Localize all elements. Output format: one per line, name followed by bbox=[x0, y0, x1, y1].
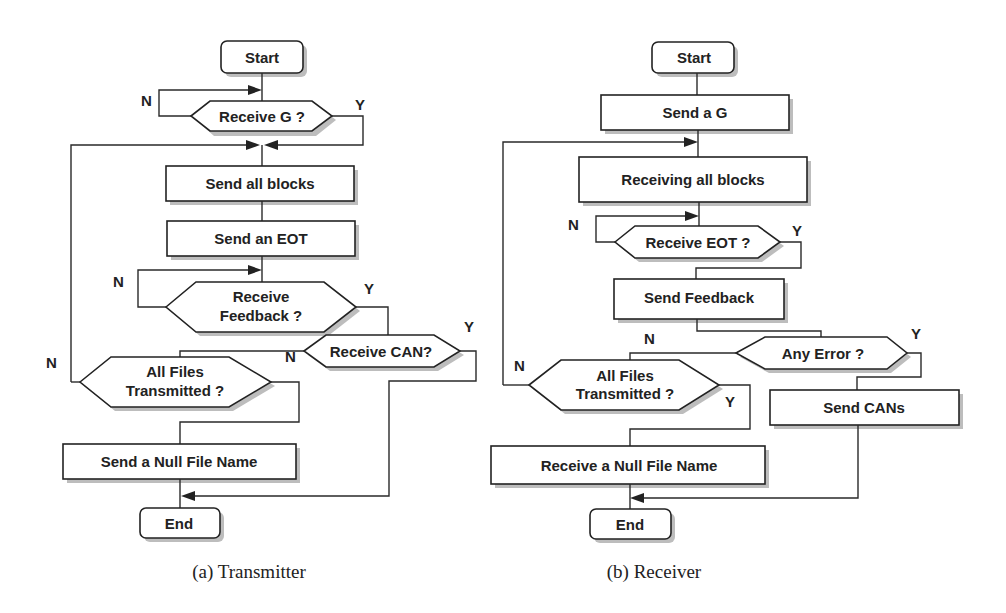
tx-end-terminal: End bbox=[140, 508, 224, 542]
tx-send-null-file-name: Send a Null File Name bbox=[63, 444, 300, 483]
tx-receive-feedback-yes: Y bbox=[364, 280, 374, 297]
rx-start-label: Start bbox=[677, 49, 711, 66]
tx-send-eot: Send an EOT bbox=[167, 221, 359, 260]
rx-any-error-no: N bbox=[644, 330, 655, 347]
tx-receive-can-decision: Receive CAN? bbox=[304, 335, 464, 371]
rx-all-files-label-2: Transmitted ? bbox=[576, 385, 674, 402]
rx-send-g: Send a G bbox=[601, 95, 793, 134]
tx-send-eot-label: Send an EOT bbox=[214, 230, 307, 247]
tx-all-files-label-1: All Files bbox=[146, 363, 204, 380]
rx-send-g-label: Send a G bbox=[662, 104, 727, 121]
rx-receiving-all-blocks-label: Receiving all blocks bbox=[621, 171, 764, 188]
tx-receive-g-no: N bbox=[141, 92, 152, 109]
rx-receive-eot-decision: Receive EOT ? bbox=[615, 226, 784, 262]
tx-receive-g-yes: Y bbox=[355, 96, 365, 113]
rx-end-terminal: End bbox=[590, 509, 675, 543]
rx-send-cans: Send CANs bbox=[770, 390, 963, 429]
tx-receive-feedback-label-1: Receive bbox=[233, 288, 290, 305]
tx-receive-can-label: Receive CAN? bbox=[330, 343, 433, 360]
tx-start-terminal: Start bbox=[221, 41, 307, 77]
receiver-flowchart: Start Send a G Receiving all blocks N Re… bbox=[491, 42, 963, 583]
tx-end-label: End bbox=[165, 515, 193, 532]
rx-send-cans-label: Send CANs bbox=[823, 399, 905, 416]
rx-all-files-no: N bbox=[514, 357, 525, 374]
rx-any-error-label: Any Error ? bbox=[782, 345, 865, 362]
rx-all-files-label-1: All Files bbox=[596, 367, 654, 384]
rx-receive-eot-label: Receive EOT ? bbox=[645, 234, 750, 251]
tx-receive-can-yes: Y bbox=[464, 318, 474, 335]
tx-receive-feedback-label-2: Feedback ? bbox=[220, 307, 303, 324]
tx-receive-g-decision: Receive G ? bbox=[191, 101, 336, 136]
tx-start-label: Start bbox=[245, 49, 279, 66]
tx-receive-feedback-decision: Receive Feedback ? bbox=[166, 282, 360, 336]
transmitter-flowchart: Start N Receive G ? Y Send all blocks bbox=[46, 41, 476, 583]
rx-end-label: End bbox=[616, 516, 644, 533]
rx-start-terminal: Start bbox=[652, 42, 738, 77]
tx-caption: (a) Transmitter bbox=[192, 561, 306, 583]
rx-send-feedback-label: Send Feedback bbox=[644, 289, 755, 306]
tx-receive-feedback-no: N bbox=[113, 273, 124, 290]
rx-receive-eot-yes: Y bbox=[792, 222, 802, 239]
rx-all-files-decision: All Files Transmitted ? bbox=[529, 360, 723, 414]
rx-receiving-all-blocks: Receiving all blocks bbox=[579, 157, 811, 206]
rx-receive-null-file-name: Receive a Null File Name bbox=[491, 446, 769, 488]
tx-all-files-decision: All Files Transmitted ? bbox=[80, 357, 275, 411]
rx-receive-null-label: Receive a Null File Name bbox=[541, 457, 718, 474]
rx-any-error-decision: Any Error ? bbox=[736, 337, 911, 373]
tx-send-all-blocks-label: Send all blocks bbox=[205, 175, 314, 192]
tx-all-files-no: N bbox=[46, 354, 57, 371]
tx-all-files-label-2: Transmitted ? bbox=[126, 382, 224, 399]
rx-caption: (b) Receiver bbox=[607, 561, 702, 583]
rx-all-files-yes: Y bbox=[725, 393, 735, 410]
rx-receive-eot-no: N bbox=[568, 216, 579, 233]
tx-receive-g-label: Receive G ? bbox=[219, 108, 305, 125]
tx-send-null-label: Send a Null File Name bbox=[101, 453, 258, 470]
tx-send-all-blocks: Send all blocks bbox=[166, 166, 358, 205]
rx-send-feedback: Send Feedback bbox=[614, 279, 788, 323]
rx-any-error-yes: Y bbox=[911, 325, 921, 342]
